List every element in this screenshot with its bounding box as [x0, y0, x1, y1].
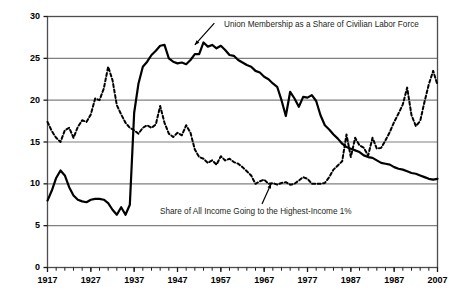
annotation-arrows	[195, 23, 271, 204]
x-tick-label-1: 1927	[69, 276, 113, 285]
x-tick-label-8: 1987	[372, 276, 416, 285]
y-tick-label-10: 10	[14, 179, 40, 188]
x-tick-label-2: 1937	[112, 276, 156, 285]
x-tick-label-6: 1977	[286, 276, 330, 285]
chart-plot-area	[0, 0, 449, 298]
series-line-1	[48, 67, 438, 185]
y-tick-label-5: 5	[14, 221, 40, 230]
x-tick-label-7: 1987	[329, 276, 373, 285]
x-tick-label-0: 1917	[26, 276, 70, 285]
union-membership-vs-top-income-chart: 051015202530 191719271937194719571967197…	[0, 0, 449, 298]
x-tick-label-4: 1957	[199, 276, 243, 285]
y-tick-label-25: 25	[14, 54, 40, 63]
y-tick-label-20: 20	[14, 96, 40, 105]
union-membership-annotation: Union Membership as a Share of Civilian …	[224, 20, 419, 30]
data-series-group	[48, 42, 438, 214]
y-tick-label-0: 0	[14, 263, 40, 272]
y-tick-label-30: 30	[14, 12, 40, 21]
x-axis-minor-ticks	[44, 17, 438, 273]
top-income-share-annotation: Share of All Income Going to the Highest…	[160, 207, 352, 217]
y-tick-label-15: 15	[14, 138, 40, 147]
x-tick-label-5: 1967	[242, 276, 286, 285]
x-tick-label-9: 2007	[416, 276, 449, 285]
x-tick-label-3: 1947	[156, 276, 200, 285]
series-line-0	[48, 42, 438, 214]
